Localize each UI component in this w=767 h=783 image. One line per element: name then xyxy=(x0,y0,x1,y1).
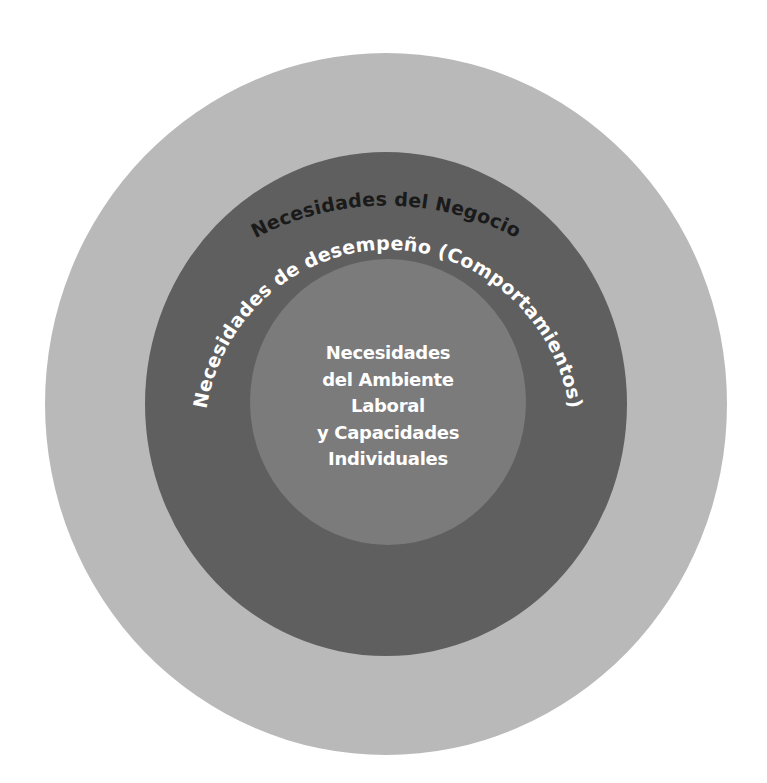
inner-label-line-1: Necesidades xyxy=(268,340,508,367)
inner-label-line-4: y Capacidades xyxy=(268,420,508,447)
concentric-diagram: Necesidades del Negocio Necesidades de d… xyxy=(0,0,767,783)
inner-circle-label: Necesidades del Ambiente Laboral y Capac… xyxy=(268,340,508,473)
inner-label-line-3: Laboral xyxy=(268,393,508,420)
inner-label-line-2: del Ambiente xyxy=(268,367,508,394)
inner-label-line-5: Individuales xyxy=(268,446,508,473)
